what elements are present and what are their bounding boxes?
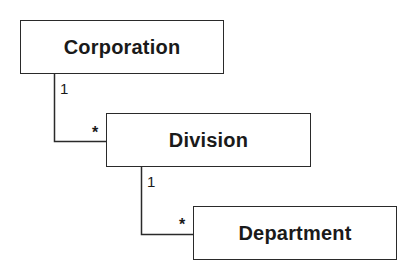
multiplicity-division-many: * [92, 124, 98, 142]
class-box-corporation[interactable]: Corporation [20, 20, 224, 74]
multiplicity-division-one: 1 [147, 173, 155, 190]
class-label-corporation: Corporation [64, 36, 181, 59]
class-label-department: Department [238, 222, 351, 245]
multiplicity-corporation-one: 1 [60, 80, 68, 97]
class-box-department[interactable]: Department [193, 206, 397, 260]
multiplicity-department-many: * [179, 216, 185, 234]
class-label-division: Division [169, 129, 248, 152]
class-box-division[interactable]: Division [106, 113, 311, 167]
